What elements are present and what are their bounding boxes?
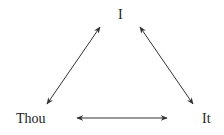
- arrows-layer: [0, 0, 224, 135]
- arrow-i-it: [140, 27, 193, 104]
- arrow-i-thou: [47, 27, 100, 104]
